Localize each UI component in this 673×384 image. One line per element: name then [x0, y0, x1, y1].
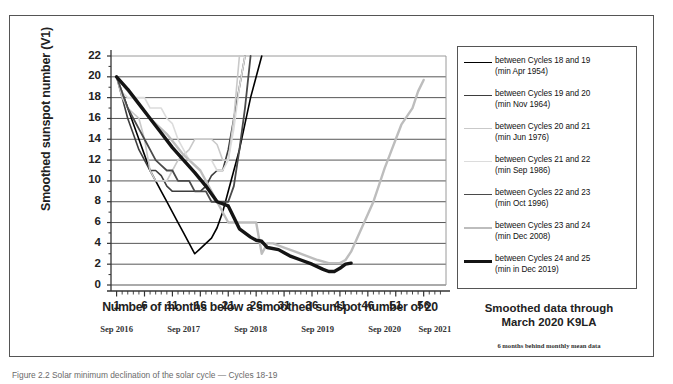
figure-caption: Figure 2.2 Solar minimum declination of … [12, 370, 612, 382]
legend-label: between Cycles 22 and 23(min Oct 1996) [495, 187, 635, 209]
legend-label-line1: between Cycles 21 and 22 [495, 155, 590, 164]
legend-label-line2: (min Dec 2008) [495, 231, 635, 242]
legend-color-swatch [464, 62, 492, 63]
year-label: Sep 2016 [89, 324, 145, 334]
year-label: Sep 2019 [290, 324, 346, 334]
legend-label-line2: (min Nov 1964) [495, 99, 635, 110]
year-label: Sep 2021 [407, 324, 463, 334]
legend-label-line1: between Cycles 24 and 25 [495, 254, 590, 263]
legend-label-line2: (min in Dec 2019) [495, 264, 635, 275]
legend-item: between Cycles 21 and 22(min Sep 1986) [464, 155, 636, 185]
year-label: Sep 2020 [357, 324, 413, 334]
y-tick-label: 16 [75, 111, 101, 123]
y-tick-label: 20 [75, 69, 101, 81]
legend-item: between Cycles 23 and 24(min Dec 2008) [464, 221, 636, 251]
y-tick-label: 10 [75, 173, 101, 185]
legend-label-line2: (min Oct 1996) [495, 198, 635, 209]
chart-legend: between Cycles 18 and 19(min Apr 1954)be… [457, 46, 637, 289]
legend-item: between Cycles 18 and 19(min Apr 1954) [464, 56, 636, 86]
legend-item: between Cycles 24 and 25(min in Dec 2019… [464, 254, 636, 284]
legend-color-swatch [464, 161, 492, 162]
note-line-1: Smoothed data through [485, 302, 613, 314]
note-line-2: March 2020 K9LA [502, 316, 597, 328]
y-tick-label: 14 [75, 132, 101, 144]
year-axis: Sep 2016Sep 2017Sep 2018Sep 2019Sep 2020… [66, 324, 476, 338]
legend-color-swatch [464, 260, 492, 263]
y-tick-label: 12 [75, 153, 101, 165]
legend-label-line2: (min Sep 1986) [495, 165, 635, 176]
legend-color-swatch [464, 128, 492, 129]
legend-label-line1: between Cycles 19 and 20 [495, 89, 590, 98]
x-axis-title: Number of months below a smoothed sunspo… [70, 300, 470, 314]
series-line-4 [117, 56, 251, 202]
smoothed-data-note: Smoothed data through March 2020 K9LA [457, 301, 641, 329]
legend-label-line1: between Cycles 23 and 24 [495, 221, 590, 230]
figure-frame: Smoothed sunspot number (V1) 02468101214… [9, 15, 654, 357]
figure-root: Smoothed sunspot number (V1) 02468101214… [0, 0, 673, 384]
legend-label: between Cycles 24 and 25(min in Dec 2019… [495, 253, 635, 275]
y-tick-label: 0 [75, 278, 101, 290]
year-label: Sep 2018 [223, 324, 279, 334]
legend-color-swatch [464, 227, 492, 229]
legend-item: between Cycles 20 and 21(min Jun 1976) [464, 122, 636, 152]
y-tick-label: 6 [75, 215, 101, 227]
legend-item: between Cycles 22 and 23(min Oct 1996) [464, 188, 636, 218]
y-tick-label: 18 [75, 90, 101, 102]
legend-label-line2: (min Apr 1954) [495, 66, 635, 77]
legend-label: between Cycles 19 and 20(min Nov 1964) [495, 88, 635, 110]
legend-label-line2: (min Jun 1976) [495, 132, 635, 143]
legend-label: between Cycles 23 and 24(min Dec 2008) [495, 220, 635, 242]
y-tick-label: 4 [75, 236, 101, 248]
legend-label-line1: between Cycles 18 and 19 [495, 56, 590, 65]
y-tick-label: 8 [75, 194, 101, 206]
smoothed-data-subnote: 6 months behind monthly mean data [457, 342, 641, 349]
legend-color-swatch [464, 194, 492, 195]
legend-label: between Cycles 18 and 19(min Apr 1954) [495, 55, 635, 77]
legend-label-line1: between Cycles 20 and 21 [495, 122, 590, 131]
legend-label: between Cycles 21 and 22(min Sep 1986) [495, 154, 635, 176]
series-line-5 [117, 77, 424, 263]
y-tick-label: 2 [75, 257, 101, 269]
chart-area: Smoothed sunspot number (V1) 02468101214… [10, 16, 655, 358]
legend-label: between Cycles 20 and 21(min Jun 1976) [495, 121, 635, 143]
year-label: Sep 2017 [156, 324, 212, 334]
y-tick-label: 22 [75, 49, 101, 61]
legend-label-line1: between Cycles 22 and 23 [495, 188, 590, 197]
legend-color-swatch [464, 95, 492, 96]
legend-item: between Cycles 19 and 20(min Nov 1964) [464, 89, 636, 119]
